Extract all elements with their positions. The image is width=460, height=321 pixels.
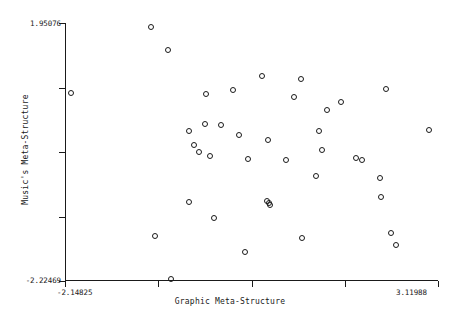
data-point: [426, 127, 432, 133]
scatter-plot-figure: 1.95076 -2.22469 -2.14825 3.11988 Graphi…: [0, 0, 460, 321]
data-point: [186, 128, 192, 134]
x-axis-tick: [438, 281, 439, 287]
data-point: [298, 76, 304, 82]
data-point: [378, 194, 384, 200]
data-point: [299, 235, 305, 241]
x-axis-title: Graphic Meta-Structure: [0, 297, 460, 306]
x-axis-max-label: 3.11988: [396, 288, 427, 297]
data-point: [236, 132, 242, 138]
data-point: [359, 157, 365, 163]
y-axis-title: Music's Meta-Structure: [21, 80, 30, 220]
data-point: [152, 233, 158, 239]
data-point: [319, 147, 325, 153]
data-point: [218, 122, 224, 128]
data-point: [203, 91, 209, 97]
data-point: [324, 107, 330, 113]
data-point: [196, 149, 202, 155]
data-point: [377, 175, 383, 181]
x-axis-tick: [345, 281, 346, 287]
plot-area: [65, 23, 438, 281]
data-point: [283, 157, 289, 163]
data-point: [165, 47, 171, 53]
data-point: [383, 86, 389, 92]
data-point: [338, 99, 344, 105]
data-point: [388, 230, 394, 236]
data-point: [202, 121, 208, 127]
data-point: [168, 276, 174, 282]
data-point: [191, 142, 197, 148]
x-axis-min-label: -2.14825: [57, 288, 92, 297]
data-point: [267, 202, 273, 208]
data-point: [316, 128, 322, 134]
data-point: [230, 87, 236, 93]
data-point: [207, 153, 213, 159]
data-point: [245, 156, 251, 162]
data-point: [393, 242, 399, 248]
data-point: [186, 199, 192, 205]
data-point: [148, 24, 154, 30]
data-point: [259, 73, 265, 79]
x-axis-tick: [252, 281, 253, 287]
y-axis-min-label: -2.22469: [26, 276, 61, 285]
data-point: [291, 94, 297, 100]
data-point: [265, 137, 271, 143]
data-point: [242, 249, 248, 255]
data-point: [313, 173, 319, 179]
x-axis-tick: [158, 281, 159, 287]
y-axis-max-label: 1.95076: [30, 19, 61, 28]
data-point: [68, 90, 74, 96]
x-axis-tick: [65, 281, 66, 287]
data-point: [211, 215, 217, 221]
